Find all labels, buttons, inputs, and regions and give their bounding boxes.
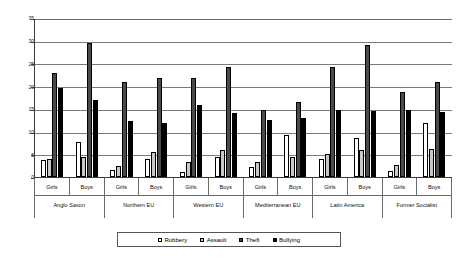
bar-bullying <box>58 88 63 177</box>
region-group <box>35 19 105 177</box>
bar-bullying <box>232 113 237 177</box>
bar-bullying <box>267 120 272 177</box>
axis-region-label: Latin America <box>313 196 382 213</box>
bar-assault <box>359 150 364 177</box>
gender-cluster <box>278 19 313 177</box>
bar-theft <box>261 110 266 177</box>
gender-cluster <box>105 19 140 177</box>
bar-assault <box>394 165 399 177</box>
axis-gender-label: Girls <box>35 178 69 195</box>
bar-assault <box>186 162 191 177</box>
gender-cluster <box>383 19 418 177</box>
axis-region-label: Mediterranean EU <box>244 196 313 213</box>
axis-gender-label: Boys <box>347 178 382 195</box>
bar-theft <box>157 78 162 177</box>
axis-region: GirlsBoysNorthern EU <box>105 178 175 218</box>
axis-region: GirlsBoysFormer Socialist <box>383 178 453 218</box>
gender-cluster <box>348 19 383 177</box>
bar-assault <box>429 149 434 177</box>
axis-gender-row: GirlsBoys <box>35 178 104 196</box>
bar-assault <box>255 162 260 177</box>
bar-bullying <box>197 105 202 177</box>
axis-gender-label: Girls <box>244 178 278 195</box>
region-group <box>174 19 244 177</box>
legend-label: Theft <box>246 237 260 243</box>
bar-assault <box>47 159 52 177</box>
region-group <box>383 19 453 177</box>
legend-swatch-icon <box>239 238 243 242</box>
plot-area <box>34 19 452 178</box>
axis-gender-label: Girls <box>174 178 208 195</box>
axis-gender-label: Boys <box>277 178 312 195</box>
axis-gender-label: Boys <box>416 178 451 195</box>
axis-region-label: Anglo Saxon <box>35 196 104 213</box>
legend-swatch-icon <box>200 238 204 242</box>
legend-label: Assault <box>207 237 227 243</box>
bar-assault <box>290 157 295 177</box>
gender-cluster <box>174 19 209 177</box>
legend-label: Bullying <box>279 237 300 243</box>
legend-label: Robbery <box>164 237 187 243</box>
bar-chart: 05101520253035 GirlsBoysAnglo SaxonGirls… <box>0 0 458 263</box>
bar-bullying <box>301 118 306 177</box>
axis-gender-label: Girls <box>383 178 417 195</box>
bar-robbery <box>388 171 393 177</box>
legend-item-bullying[interactable]: Bullying <box>273 237 301 243</box>
bar-robbery <box>284 135 289 177</box>
bar-robbery <box>145 159 150 177</box>
gender-cluster <box>313 19 348 177</box>
bar-groups <box>35 19 452 177</box>
legend-item-robbery[interactable]: Robbery <box>158 237 187 243</box>
axis-region: GirlsBoysMediterranean EU <box>244 178 314 218</box>
axis-region-label: Northern EU <box>105 196 174 213</box>
axis-region-label: Western EU <box>174 196 243 213</box>
axis-region: GirlsBoysWestern EU <box>174 178 244 218</box>
legend-swatch-icon <box>273 238 277 242</box>
axis-gender-row: GirlsBoys <box>174 178 243 196</box>
gender-cluster <box>209 19 244 177</box>
bar-theft <box>52 73 57 177</box>
bar-robbery <box>423 123 428 177</box>
bar-bullying <box>406 110 411 177</box>
bar-robbery <box>110 170 115 177</box>
axis-gender-row: GirlsBoys <box>313 178 382 196</box>
bar-theft <box>435 82 440 177</box>
bar-robbery <box>354 138 359 177</box>
bar-theft <box>191 78 196 177</box>
bar-robbery <box>319 159 324 177</box>
bar-theft <box>226 67 231 177</box>
bar-theft <box>87 43 92 177</box>
bar-theft <box>365 45 370 177</box>
legend-item-theft[interactable]: Theft <box>239 237 259 243</box>
bar-bullying <box>336 110 341 177</box>
bar-theft <box>330 67 335 177</box>
bar-robbery <box>41 160 46 177</box>
bar-robbery <box>180 172 185 177</box>
y-axis: 05101520253035 <box>0 0 34 200</box>
bar-assault <box>220 150 225 177</box>
axis-gender-label: Girls <box>313 178 347 195</box>
gender-cluster <box>35 19 70 177</box>
axis-gender-label: Boys <box>208 178 243 195</box>
axis-region: GirlsBoysLatin America <box>313 178 383 218</box>
bar-assault <box>325 154 330 177</box>
chart-legend: RobberyAssaultTheftBullying <box>117 232 341 247</box>
gender-cluster <box>139 19 174 177</box>
axis-gender-label: Boys <box>138 178 173 195</box>
axis-gender-row: GirlsBoys <box>105 178 174 196</box>
bar-bullying <box>128 121 133 177</box>
axis-gender-label: Boys <box>69 178 104 195</box>
gender-cluster <box>417 19 452 177</box>
axis-region: GirlsBoysAnglo Saxon <box>34 178 105 218</box>
bar-robbery <box>249 167 254 177</box>
legend-swatch-icon <box>158 238 162 242</box>
bar-bullying <box>371 111 376 177</box>
axis-gender-label: Girls <box>105 178 139 195</box>
bar-assault <box>81 157 86 177</box>
axis-gender-row: GirlsBoys <box>244 178 313 196</box>
bar-bullying <box>162 123 167 178</box>
bar-robbery <box>215 157 220 177</box>
legend-item-assault[interactable]: Assault <box>200 237 226 243</box>
bar-bullying <box>93 100 98 177</box>
axis-gender-row: GirlsBoys <box>383 178 452 196</box>
